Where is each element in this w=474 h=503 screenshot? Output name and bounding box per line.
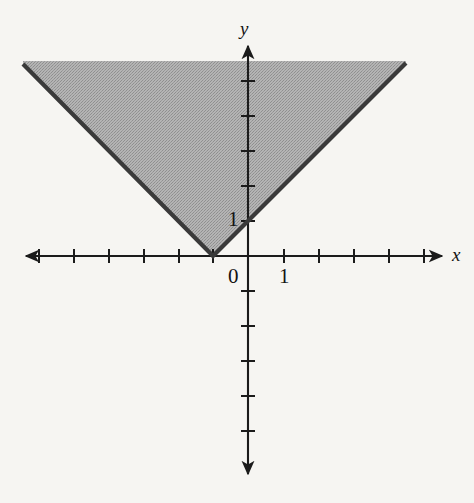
x-axis-label: x: [452, 245, 460, 264]
origin-label: 0: [228, 266, 239, 287]
y-axis-label: y: [240, 19, 248, 38]
x-tick-label-1: 1: [279, 266, 290, 287]
graph-figure: y x 0 1 1: [0, 0, 474, 503]
y-tick-label-1: 1: [228, 209, 239, 230]
coordinate-plane: [0, 0, 474, 503]
shaded-region: [23, 61, 406, 256]
